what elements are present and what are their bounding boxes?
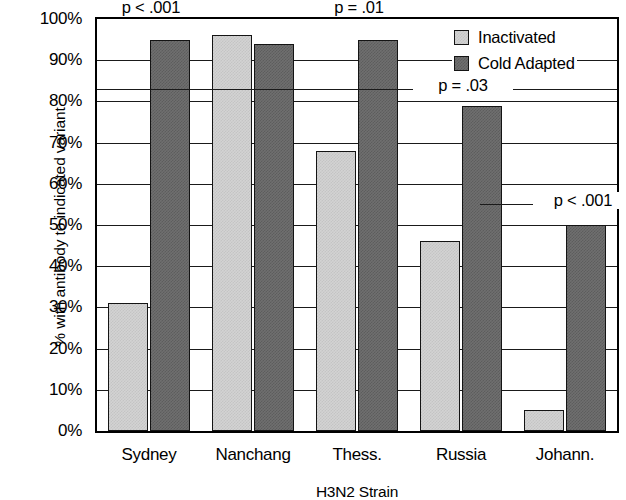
chart-legend: Inactivated Cold Adapted bbox=[452, 22, 577, 78]
y-axis-tick-label: 50% bbox=[6, 216, 82, 233]
y-axis-tick-label: 80% bbox=[6, 92, 82, 109]
x-axis-tick-label: Nanchang bbox=[193, 446, 313, 463]
bar-johann-inactivated bbox=[524, 410, 564, 431]
bar-thess-inactivated bbox=[316, 151, 356, 431]
bar-johann-cold-adapted bbox=[566, 225, 606, 431]
plot-area: p < .001p = .01p = .03p < .001 bbox=[95, 17, 619, 433]
y-axis-tick-label: 30% bbox=[6, 298, 82, 315]
legend-label-cold-adapted: Cold Adapted bbox=[478, 55, 575, 72]
legend-swatch-icon-inactivated bbox=[454, 30, 469, 45]
y-axis-tick-label: 100% bbox=[6, 10, 82, 27]
pvalue-annotation: p = .03 bbox=[413, 77, 513, 94]
bar-nanchang-inactivated bbox=[212, 35, 252, 431]
legend-item-cold-adapted: Cold Adapted bbox=[454, 50, 575, 76]
x-axis-title: H3N2 Strain bbox=[95, 483, 619, 500]
pvalue-annotation: p < .001 bbox=[533, 192, 626, 209]
bar-sydney-cold-adapted bbox=[150, 40, 190, 431]
y-axis-tick-label: 90% bbox=[6, 51, 82, 68]
pvalue-leader-line bbox=[97, 89, 413, 90]
y-axis-tick-label: 20% bbox=[6, 340, 82, 357]
legend-swatch-icon-cold-adapted bbox=[454, 56, 469, 71]
y-axis-tick-label: 60% bbox=[6, 175, 82, 192]
plot-inner: p < .001p = .01p = .03p < .001 bbox=[97, 19, 617, 431]
pvalue-annotation: p = .01 bbox=[309, 0, 409, 16]
legend-item-inactivated: Inactivated bbox=[454, 24, 575, 50]
x-axis-tick-label: Russia bbox=[401, 446, 521, 463]
pvalue-annotation: p < .001 bbox=[101, 0, 201, 16]
y-axis-tick-label: 70% bbox=[6, 134, 82, 151]
bar-thess-cold-adapted bbox=[358, 40, 398, 431]
y-axis-tick-label: 0% bbox=[6, 422, 82, 439]
x-axis-tick-label: Sydney bbox=[89, 446, 209, 463]
bar-russia-cold-adapted bbox=[462, 106, 502, 431]
y-axis-tick-label: 10% bbox=[6, 381, 82, 398]
y-axis-tick-label: 40% bbox=[6, 257, 82, 274]
bar-nanchang-cold-adapted bbox=[254, 44, 294, 431]
pvalue-leader-line bbox=[507, 89, 617, 90]
bar-chart-figure: % with antibody to indicated variant 100… bbox=[0, 0, 626, 500]
bar-sydney-inactivated bbox=[108, 303, 148, 431]
bar-russia-inactivated bbox=[420, 241, 460, 431]
x-axis-tick-label: Johann. bbox=[505, 446, 625, 463]
pvalue-leader-line bbox=[480, 204, 533, 205]
y-axis-tick-labels: 100%90%80%70%60%50%40%30%20%10%0% bbox=[6, 0, 82, 500]
legend-label-inactivated: Inactivated bbox=[478, 29, 556, 46]
x-axis-tick-label: Thess. bbox=[297, 446, 417, 463]
